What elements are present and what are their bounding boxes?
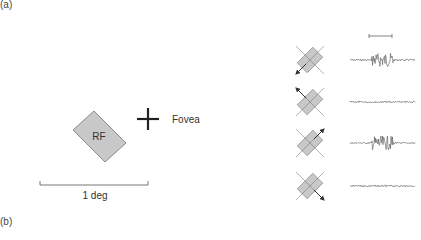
degree-scale-bar — [40, 181, 148, 185]
arrow-down-right-icon — [314, 190, 323, 199]
fovea-label: Fovea — [172, 114, 200, 125]
fovea-cross-icon — [137, 108, 159, 130]
stimulus-icon-row-4 — [296, 172, 324, 200]
response-trace-row-3 — [350, 136, 415, 150]
receptive-field: RF — [73, 111, 126, 162]
stimulus-icon-row-1 — [296, 46, 324, 74]
time-scale-bar — [369, 34, 392, 38]
response-trace-row-4 — [350, 185, 415, 187]
response-traces — [350, 53, 415, 187]
response-trace-row-1 — [350, 53, 415, 66]
stimulus-icon-row-2 — [296, 88, 324, 116]
arrow-up-left-icon — [297, 89, 306, 98]
rf-label: RF — [92, 131, 105, 142]
scale-bar-label: 1 deg — [82, 190, 107, 201]
stimulus-icon-row-3 — [296, 129, 324, 157]
response-trace-row-2 — [350, 101, 415, 103]
